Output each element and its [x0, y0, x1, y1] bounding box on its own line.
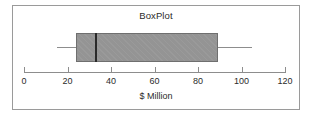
axis-tick [285, 67, 286, 73]
boxplot-figure: BoxPlot 020406080100120 $ Million [0, 0, 312, 120]
axis-tick-label: 100 [222, 76, 262, 86]
axis-tick [24, 67, 25, 73]
axis-tick [155, 67, 156, 73]
chart-title: BoxPlot [0, 10, 312, 21]
median-line [95, 33, 97, 62]
plot-area [24, 28, 285, 68]
whisker-left [57, 47, 77, 48]
whisker-right [218, 47, 253, 48]
axis-tick [68, 67, 69, 73]
axis-tick [111, 67, 112, 73]
axis-tick-label: 20 [48, 76, 88, 86]
axis-tick-label: 40 [91, 76, 131, 86]
box-iqr [76, 33, 217, 62]
axis-tick [198, 67, 199, 73]
axis-tick [242, 67, 243, 73]
axis-tick-label: 60 [135, 76, 175, 86]
axis-tick-label: 80 [178, 76, 218, 86]
axis-tick-label: 120 [265, 76, 305, 86]
x-axis-label: $ Million [0, 91, 312, 101]
axis-tick-label: 0 [4, 76, 44, 86]
